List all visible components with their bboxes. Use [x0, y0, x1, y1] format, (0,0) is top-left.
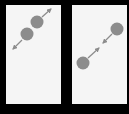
left-arrow-1: [42, 9, 51, 17]
left-circle-1: [31, 16, 44, 29]
right-arrow-0: [88, 48, 99, 58]
diagram-canvas: [0, 0, 129, 114]
left-circle-0: [21, 28, 34, 41]
right-arrow-1: [103, 34, 112, 43]
right-circle-1: [111, 23, 124, 36]
left-arrow-0: [13, 40, 22, 49]
right-circle-0: [77, 57, 90, 70]
